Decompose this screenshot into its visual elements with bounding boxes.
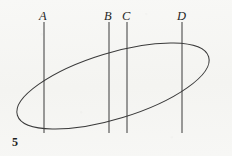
vertical-lines-group [44, 22, 182, 133]
figure-number: 5 [12, 136, 18, 148]
ellipse-shape [8, 25, 219, 147]
line-label-d: D [177, 10, 186, 23]
line-label-c: C [122, 10, 130, 23]
line-label-a: A [39, 10, 47, 23]
line-label-b: B [104, 10, 112, 23]
ellipse-group [8, 25, 219, 147]
figure-drawing [0, 0, 232, 156]
figure-canvas: A B C D 5 [0, 0, 232, 156]
